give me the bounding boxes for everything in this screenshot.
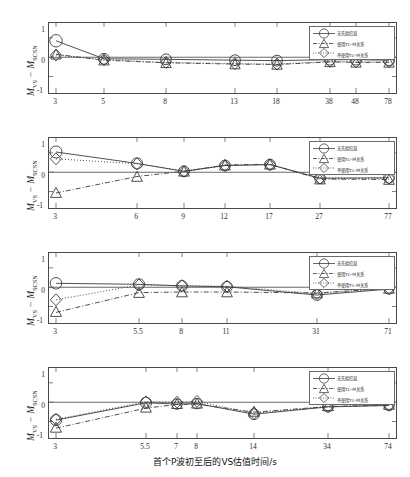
panel-hector-mine: MVS − MSCSN 1 0 -1 M 7.1 Hector Mine [0, 345, 410, 477]
y-tick-2-bot: -1 [29, 201, 43, 210]
x-tick-1-5: 38 [319, 97, 339, 106]
legend-label-2-2: 不使用τc–M关系 [337, 169, 368, 174]
x-tick-4-5: 34 [317, 442, 337, 451]
x-tick-2-1: 6 [126, 212, 146, 221]
legend-row-4-use-tc: 使用τc–M关系 [337, 385, 368, 396]
legend-label-3-2: 不使用τc–M关系 [337, 284, 368, 289]
legend-row-3-no-tc: 不使用τc–M关系 [337, 281, 368, 292]
x-tick-4-4: 14 [243, 442, 263, 451]
x-tick-2-6: 77 [378, 212, 398, 221]
x-tick-4-1: 5.5 [134, 442, 156, 451]
legend-row-3-no-prior: 无先验信息 [337, 259, 368, 270]
x-tick-3-5: 71 [378, 327, 398, 336]
legend-label-3-1: 使用τc–M关系 [337, 273, 364, 278]
x-tick-3-0: 3 [45, 327, 65, 336]
legend-label-4-0: 无先验信息 [337, 377, 357, 382]
legend-row-4-no-tc: 不使用τc–M关系 [337, 396, 368, 407]
legend-row-1-use-tc: 使用τc–M关系 [337, 40, 368, 51]
legend-1: 无先验信息 使用τc–M关系 不使用τc–M关系 [309, 26, 395, 60]
x-tick-4-0: 3 [45, 442, 65, 451]
x-tick-3-4: 31 [306, 327, 326, 336]
y-tick-3-top: 1 [31, 255, 45, 264]
legend-row-2-use-tc: 使用τc–M关系 [337, 155, 368, 166]
x-axis-title: 首个P波初至后的VS估值时间/s [10, 455, 410, 468]
legend-2: 无先验信息 使用τc–M关系 不使用τc–M关系 [309, 141, 395, 175]
x-tick-1-0: 3 [45, 97, 65, 106]
x-tick-4-6: 74 [378, 442, 398, 451]
x-tick-1-6: 48 [345, 97, 365, 106]
x-tick-2-0: 3 [45, 212, 65, 221]
panel-yorba-linda: MVS − MSCSN 1 0 -1 M 4.75 Yorba Linda [0, 0, 410, 115]
legend-3: 无先验信息 使用τc–M关系 不使用τc–M关系 [309, 256, 395, 290]
x-tick-4-3: 8 [186, 442, 206, 451]
x-tick-2-5: 27 [309, 212, 329, 221]
legend-row-2-no-tc: 不使用τc–M关系 [337, 166, 368, 177]
y-tick-3-zero: 0 [31, 286, 45, 295]
legend-row-2-no-prior: 无先验信息 [337, 144, 368, 155]
y-tick-2-zero: 0 [31, 171, 45, 180]
legend-label-4-1: 使用τc–M关系 [337, 388, 364, 393]
x-tick-1-4: 18 [266, 97, 286, 106]
y-tick-1-top: 1 [31, 25, 45, 34]
x-tick-1-2: 8 [155, 97, 175, 106]
legend-label-1-1: 使用τc–M关系 [337, 43, 364, 48]
y-tick-3-bot: -1 [29, 316, 43, 325]
y-tick-4-top: 1 [31, 370, 45, 379]
x-tick-2-4: 17 [259, 212, 279, 221]
x-tick-3-1: 5.5 [127, 327, 149, 336]
legend-label-4-2: 不使用τc–M关系 [337, 399, 368, 404]
y-tick-2-top: 1 [31, 140, 45, 149]
legend-row-4-no-prior: 无先验信息 [337, 374, 368, 385]
panel-san-simeon: MVS − MSCSN 1 0 -1 M 6.5 San Simeon [0, 230, 410, 345]
x-tick-4-2: 7 [166, 442, 186, 451]
y-tick-4-bot: -1 [29, 431, 43, 440]
x-tick-1-7: 78 [378, 97, 398, 106]
y-tick-4-zero: 0 [31, 401, 45, 410]
x-tick-3-3: 11 [216, 327, 236, 336]
x-tick-1-1: 5 [93, 97, 113, 106]
x-tick-3-2: 8 [171, 327, 191, 336]
panel-parkfield: MVS − MSCSN 1 0 -1 M 6.0 Parkfield [0, 115, 410, 230]
legend-4: 无先验信息 使用τc–M关系 不使用τc–M关系 [309, 371, 395, 405]
legend-label-1-0: 无先验信息 [337, 32, 357, 37]
figure-multi-panel-chart: MVS − MSCSN 1 0 -1 M 4.75 Yorba Linda [0, 0, 410, 477]
x-tick-2-2: 9 [173, 212, 193, 221]
y-tick-1-bot: -1 [29, 86, 43, 95]
y-tick-1-zero: 0 [31, 56, 45, 65]
legend-label-1-2: 不使用τc–M关系 [337, 54, 368, 59]
legend-label-3-0: 无先验信息 [337, 262, 357, 267]
legend-label-2-1: 使用τc–M关系 [337, 158, 364, 163]
x-tick-1-3: 13 [224, 97, 244, 106]
legend-label-2-0: 无先验信息 [337, 147, 357, 152]
legend-row-1-no-prior: 无先验信息 [337, 29, 368, 40]
legend-row-1-no-tc: 不使用τc–M关系 [337, 51, 368, 62]
x-tick-2-3: 12 [214, 212, 234, 221]
legend-row-3-use-tc: 使用τc–M关系 [337, 270, 368, 281]
